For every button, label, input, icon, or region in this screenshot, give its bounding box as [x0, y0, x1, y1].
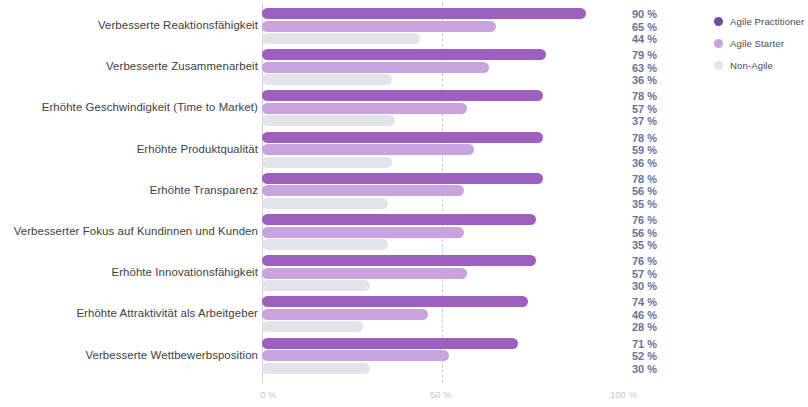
bar [262, 74, 392, 85]
value-label: 52 % [632, 351, 657, 362]
legend-color-swatch-icon [714, 61, 723, 70]
category-label: Verbesserter Fokus auf Kundinnen und Kun… [2, 225, 258, 238]
bar-group [262, 255, 648, 291]
bar-group [262, 8, 648, 44]
bar [262, 280, 370, 291]
bar [262, 214, 536, 225]
value-label: 76 % [632, 215, 657, 226]
value-label: 28 % [632, 322, 657, 333]
bar-group [262, 338, 648, 374]
value-label: 36 % [632, 75, 657, 86]
value-label: 65 % [632, 22, 657, 33]
category-label: Erhöhte Attraktivität als Arbeitgeber [2, 307, 258, 320]
bar [262, 115, 395, 126]
category-label: Verbesserte Reaktionsfähigkeit [2, 19, 258, 32]
legend-item[interactable]: Non-Agile [714, 54, 808, 76]
bar [262, 239, 388, 250]
value-label: 90 % [632, 9, 657, 20]
x-tick-label: 50 % [430, 389, 452, 400]
value-label: 35 % [632, 199, 657, 210]
bar [262, 103, 467, 114]
value-label: 46 % [632, 310, 657, 321]
value-label: 35 % [632, 240, 657, 251]
value-label: 78 % [632, 133, 657, 144]
value-label: 71 % [632, 339, 657, 350]
bar [262, 255, 536, 266]
bar [262, 268, 467, 279]
x-tick-label: 0 % [260, 389, 276, 400]
bar [262, 33, 420, 44]
value-label: 56 % [632, 228, 657, 239]
category-label: Erhöhte Geschwindigkeit (Time to Market) [2, 101, 258, 114]
bar [262, 173, 543, 184]
chart-legend: Agile PractitionerAgile StarterNon-Agile [714, 10, 808, 76]
bar [262, 62, 489, 73]
category-label: Erhöhte Produktqualität [2, 143, 258, 156]
value-label: 56 % [632, 186, 657, 197]
legend-color-swatch-icon [714, 17, 723, 26]
bar-group [262, 296, 648, 332]
legend-label: Agile Practitioner [730, 16, 804, 27]
value-label: 78 % [632, 91, 657, 102]
plot-area: 90 %65 %44 %79 %63 %36 %78 %57 %37 %78 %… [262, 0, 648, 383]
bar [262, 321, 363, 332]
legend-item[interactable]: Agile Practitioner [714, 10, 808, 32]
category-axis-labels: Verbesserte ReaktionsfähigkeitVerbessert… [0, 0, 258, 383]
value-label: 76 % [632, 256, 657, 267]
value-label: 78 % [632, 174, 657, 185]
value-label: 59 % [632, 145, 657, 156]
category-label: Verbesserte Zusammenarbeit [2, 60, 258, 73]
value-label: 36 % [632, 158, 657, 169]
bar [262, 21, 496, 32]
bar [262, 338, 518, 349]
bar-group [262, 90, 648, 126]
value-label: 30 % [632, 364, 657, 375]
value-label: 37 % [632, 116, 657, 127]
bar-group [262, 49, 648, 85]
bar [262, 132, 543, 143]
bar [262, 90, 543, 101]
bar [262, 8, 586, 19]
category-label: Verbesserte Wettbewerbsposition [2, 349, 258, 362]
bar-group [262, 173, 648, 209]
value-label: 79 % [632, 50, 657, 61]
bar-group [262, 132, 648, 168]
bar [262, 157, 392, 168]
x-tick-label: 100 % [610, 389, 637, 400]
category-label: Erhöhte Transparenz [2, 184, 258, 197]
bar [262, 296, 528, 307]
bar [262, 350, 449, 361]
value-label: 57 % [632, 269, 657, 280]
bar [262, 144, 474, 155]
legend-label: Non-Agile [730, 60, 773, 71]
value-label: 44 % [632, 34, 657, 45]
category-label: Erhöhte Innovationsfähigkeit [2, 266, 258, 279]
bar [262, 363, 370, 374]
value-label: 30 % [632, 281, 657, 292]
legend-color-swatch-icon [714, 39, 723, 48]
legend-item[interactable]: Agile Starter [714, 32, 808, 54]
bar-chart: Verbesserte ReaktionsfähigkeitVerbessert… [0, 0, 808, 407]
bar [262, 227, 464, 238]
bar [262, 185, 464, 196]
bar [262, 309, 428, 320]
bar [262, 49, 546, 60]
bar [262, 198, 388, 209]
legend-label: Agile Starter [730, 38, 784, 49]
bar-group [262, 214, 648, 250]
value-label: 74 % [632, 297, 657, 308]
value-label: 57 % [632, 104, 657, 115]
value-label: 63 % [632, 63, 657, 74]
